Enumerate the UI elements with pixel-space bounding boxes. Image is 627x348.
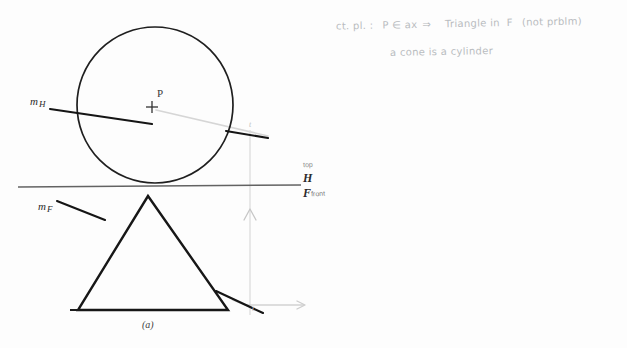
tangent-mark-top-label: t: [249, 121, 251, 129]
m-h-label-base: m: [30, 95, 38, 107]
hf-fold-line: [18, 185, 301, 187]
plane-h-label: H: [303, 172, 312, 184]
center-point-p-icon: [146, 101, 158, 113]
m-h-label-subscript: H: [38, 99, 46, 109]
point-p-label: P: [157, 88, 163, 99]
view-top-label: top: [303, 161, 313, 169]
m-f-label: mF: [38, 201, 52, 214]
figure-caption: (a): [142, 320, 154, 330]
geometry-drawing: [0, 0, 627, 348]
tangent-mark-bottom-label: t: [252, 305, 254, 313]
annotation-result: Triangle in F: [436, 17, 513, 30]
m-f-trace-line-left: [57, 201, 105, 220]
drawing-canvas: P mH mF top H F front t t (a) ct. pl. :P…: [0, 0, 627, 348]
front-view-triangle: [78, 196, 228, 310]
top-view-circle: [77, 27, 233, 183]
annotation-prefix: ct. pl. :: [336, 20, 374, 32]
m-f-label-subscript: F: [46, 204, 53, 214]
annotation-parenthetical: (not prblm): [513, 15, 582, 27]
annotation-line-2: a cone is a cylinder: [390, 45, 493, 58]
m-f-label-base: m: [38, 200, 46, 212]
m-h-label: mH: [30, 96, 45, 109]
annotation-arrow-icon: ⇒: [417, 18, 436, 29]
m-h-trace-line-left: [50, 109, 152, 124]
annotation-condition: P ∈ ax: [373, 19, 417, 31]
view-front-label: front: [311, 190, 325, 198]
plane-f-label: F: [303, 187, 311, 199]
